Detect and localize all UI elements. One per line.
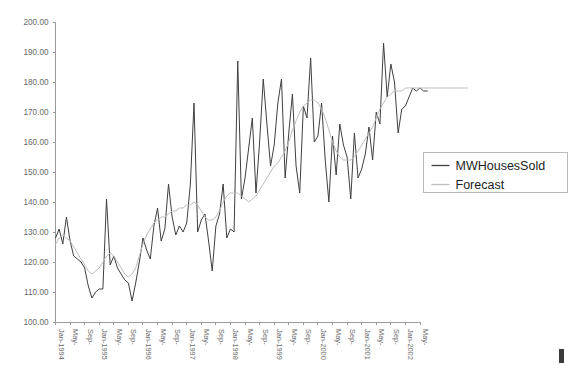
x-tick-label: Sep-	[129, 329, 138, 345]
y-tick-label: 200.00	[23, 18, 48, 27]
x-tick-label: Jan-1995	[100, 329, 109, 360]
x-tick-label: May-	[115, 329, 124, 346]
series-line-mwhousessold	[56, 43, 428, 301]
y-tick-label: 100.00	[23, 318, 48, 327]
y-tick-label: 160.00	[23, 138, 48, 147]
legend-label-mwhousessold[interactable]: MWHousesSold	[456, 159, 546, 173]
series-lines	[56, 43, 468, 301]
y-tick-label: 170.00	[23, 108, 48, 117]
x-tick-label: Jan-1994	[57, 329, 66, 360]
line-chart[interactable]: 200.00190.00180.00170.00160.00150.00140.…	[0, 0, 568, 372]
x-tick-label: May-	[202, 329, 211, 346]
y-tick-label: 180.00	[23, 78, 48, 87]
x-tick-label: May-	[159, 329, 168, 346]
y-tick-label: 140.00	[23, 198, 48, 207]
y-tick-label: 110.00	[24, 288, 49, 297]
x-tick-label: May-	[246, 329, 255, 346]
corner-marker	[559, 349, 564, 363]
x-tick-label: Sep-	[304, 329, 313, 345]
x-axis-ticks: Jan-1994May-Sep-Jan-1995May-Sep-Jan-1996…	[56, 322, 431, 360]
x-tick-label: Jan-2002	[406, 329, 415, 360]
x-tick-label: Jan-2000	[319, 329, 328, 360]
chart-legend[interactable]: MWHousesSoldForecast	[424, 153, 568, 193]
x-tick-label: Sep-	[348, 329, 357, 345]
chart-container: 200.00190.00180.00170.00160.00150.00140.…	[0, 0, 568, 372]
x-tick-label: Jan-1997	[188, 329, 197, 360]
y-tick-label: 190.00	[23, 48, 48, 57]
x-tick-label: May-	[334, 329, 343, 346]
x-tick-label: Sep-	[86, 329, 95, 345]
x-tick-label: Sep-	[173, 329, 182, 345]
legend-label-forecast[interactable]: Forecast	[456, 178, 505, 192]
x-tick-label: Jan-2001	[363, 329, 372, 360]
x-tick-label: Jan-1996	[144, 329, 153, 360]
y-tick-label: 130.00	[23, 228, 48, 237]
x-tick-label: Sep-	[261, 329, 270, 345]
x-tick-label: May-	[421, 329, 430, 346]
x-tick-label: May-	[71, 329, 80, 346]
x-tick-label: May-	[290, 329, 299, 346]
x-tick-label: Jan-1998	[231, 329, 240, 360]
x-tick-label: May-	[377, 329, 386, 346]
y-tick-label: 120.00	[23, 258, 48, 267]
x-tick-label: Sep-	[392, 329, 401, 345]
x-tick-label: Sep-	[217, 329, 226, 345]
y-axis-ticks: 200.00190.00180.00170.00160.00150.00140.…	[23, 18, 55, 327]
y-tick-label: 150.00	[23, 168, 48, 177]
x-tick-label: Jan-1999	[275, 329, 284, 360]
